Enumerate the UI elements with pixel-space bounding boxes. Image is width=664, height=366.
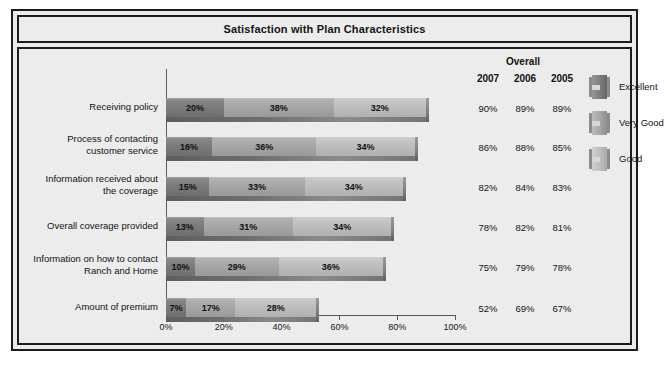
legend-swatch-excellent-icon (589, 75, 610, 99)
bar-row: 13%31%34% (166, 217, 395, 241)
overall-value-2005: 67% (545, 303, 579, 314)
plot-area: Overall 2007 2006 2005 Excellent (19, 49, 630, 343)
chart-figure: Satisfaction with Plan Characteristics O… (11, 9, 638, 351)
bar-segment-value: 28% (267, 303, 285, 313)
bar-depth-shadow (166, 196, 403, 201)
category-label: Amount of premium (23, 301, 158, 313)
overall-value-2005: 78% (545, 262, 579, 273)
bar-depth-shadow (166, 317, 316, 322)
bar-row: 10%29%36% (166, 257, 387, 281)
overall-value-2007: 82% (471, 182, 505, 193)
category-label-line: Information received about (23, 173, 158, 185)
bar-segment-good[interactable]: 28% (235, 298, 316, 317)
bar-segment-value: 17% (202, 303, 220, 313)
bar-segment-value: 38% (270, 103, 288, 113)
category-label-line: Ranch and Home (23, 265, 158, 277)
bar-segment-excellent[interactable]: 10% (166, 257, 195, 276)
category-label: Information on how to contactRanch and H… (23, 253, 158, 277)
bar-segment-value: 34% (345, 182, 363, 192)
overall-year-2007: 2007 (471, 73, 505, 84)
bar-segment-value: 32% (371, 103, 389, 113)
bar-segment-very-good[interactable]: 38% (224, 98, 334, 117)
bar-segment-good[interactable]: 32% (334, 98, 426, 117)
bar-segment-very-good[interactable]: 17% (186, 298, 235, 317)
legend-swatch-good-icon (589, 147, 610, 171)
bar-segment-good[interactable]: 34% (316, 137, 414, 156)
overall-value-2006: 84% (508, 182, 542, 193)
bar-segment-value: 16% (180, 142, 198, 152)
bar-segment-excellent[interactable]: 15% (166, 177, 209, 196)
bar-end-cap (391, 217, 394, 241)
overall-value-2006: 69% (508, 303, 542, 314)
category-label: Process of contactingcustomer service (23, 133, 158, 157)
category-label-line: Information on how to contact (23, 253, 158, 265)
chart-title-band: Satisfaction with Plan Characteristics (17, 15, 632, 43)
bar-row: 7%17%28% (166, 298, 320, 322)
bar-segment-value: 20% (186, 103, 204, 113)
bar-segment-excellent[interactable]: 20% (166, 98, 224, 117)
stacked-bar[interactable]: 15%33%34% (166, 177, 403, 196)
bar-segment-very-good[interactable]: 31% (204, 217, 294, 236)
bar-segment-value: 29% (228, 262, 246, 272)
bar-segment-good[interactable]: 34% (293, 217, 391, 236)
stacked-bar[interactable]: 20%38%32% (166, 98, 426, 117)
overall-value-2007: 86% (471, 142, 505, 153)
overall-value-2006: 79% (508, 262, 542, 273)
legend-swatch-very-good-icon (589, 111, 610, 135)
overall-year-2005: 2005 (545, 73, 579, 84)
bar-depth-shadow (166, 117, 426, 122)
category-label-line: Receiving policy (23, 101, 158, 113)
bar-end-cap (403, 177, 406, 201)
category-label: Overall coverage provided (23, 220, 158, 232)
overall-value-2007: 90% (471, 103, 505, 114)
bar-segment-very-good[interactable]: 29% (195, 257, 279, 276)
stacked-bar[interactable]: 10%29%36% (166, 257, 383, 276)
legend-label-good: Good (619, 153, 642, 164)
overall-value-2005: 83% (545, 182, 579, 193)
overall-year-2006: 2006 (508, 73, 542, 84)
bar-segment-value: 15% (179, 182, 197, 192)
bar-segment-value: 33% (248, 182, 266, 192)
bar-segment-value: 13% (176, 222, 194, 232)
overall-value-2006: 89% (508, 103, 542, 114)
overall-value-2005: 85% (545, 142, 579, 153)
stacked-bar[interactable]: 16%36%34% (166, 137, 415, 156)
bar-end-cap (383, 257, 386, 281)
bar-row: 20%38%32% (166, 98, 430, 122)
stacked-bar[interactable]: 7%17%28% (166, 298, 316, 317)
x-axis-tick (455, 315, 456, 320)
overall-group-label: Overall (468, 56, 578, 67)
stacked-bar[interactable]: 13%31%34% (166, 217, 391, 236)
overall-value-2007: 52% (471, 303, 505, 314)
x-axis-tick-label: 60% (330, 322, 348, 332)
bar-segment-value: 36% (255, 142, 273, 152)
bar-segment-value: 10% (171, 262, 189, 272)
bar-segment-value: 34% (333, 222, 351, 232)
bar-segment-value: 31% (239, 222, 257, 232)
overall-value-2006: 82% (508, 222, 542, 233)
bar-end-cap (316, 298, 319, 322)
overall-value-2005: 81% (545, 222, 579, 233)
bar-row: 15%33%34% (166, 177, 407, 201)
chart-body-panel: Overall 2007 2006 2005 Excellent (17, 47, 632, 345)
bar-segment-very-good[interactable]: 33% (209, 177, 304, 196)
x-axis-tick-label: 40% (273, 322, 291, 332)
bar-segment-good[interactable]: 36% (279, 257, 383, 276)
x-axis-tick-label: 20% (215, 322, 233, 332)
overall-value-2006: 88% (508, 142, 542, 153)
bar-segment-excellent[interactable]: 7% (166, 298, 186, 317)
category-label-line: Overall coverage provided (23, 220, 158, 232)
category-label-line: the coverage (23, 185, 158, 197)
x-axis-tick-label: 100% (443, 322, 466, 332)
bar-segment-excellent[interactable]: 16% (166, 137, 212, 156)
bar-segment-value: 34% (356, 142, 374, 152)
bar-depth-shadow (166, 236, 391, 241)
chart-title: Satisfaction with Plan Characteristics (224, 23, 426, 35)
bar-segment-very-good[interactable]: 36% (212, 137, 316, 156)
overall-value-2005: 89% (545, 103, 579, 114)
bar-segment-good[interactable]: 34% (305, 177, 403, 196)
bar-depth-shadow (166, 156, 415, 161)
legend-label-excellent: Excellent (619, 81, 658, 92)
overall-value-2007: 75% (471, 262, 505, 273)
bar-segment-excellent[interactable]: 13% (166, 217, 204, 236)
